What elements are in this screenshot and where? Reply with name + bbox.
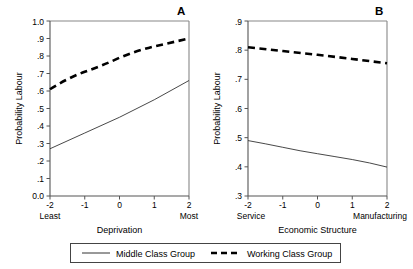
panel-a-series-middle-class (50, 81, 189, 149)
panel-a-xtick-3: 1 (152, 200, 157, 210)
panel-a-xend-left: Least (40, 211, 61, 221)
panel-b-series-middle-class (248, 141, 387, 168)
panel-b-xtick-0: -2 (244, 200, 252, 210)
legend-label-working-class: Working Class Group (247, 249, 332, 259)
panel-b-ytick-0: .3 (235, 191, 242, 201)
panel-b-xticklabels: -2 -1 0 1 2 (244, 200, 389, 210)
panel-a-xtick-4: 2 (187, 200, 192, 210)
panel-b-xtick-1: -1 (279, 200, 287, 210)
panel-b-series-working-class (248, 47, 387, 63)
panel-a: A 0.0 .1 .2 (14, 5, 199, 235)
panel-b-xtick-4: 2 (385, 200, 390, 210)
panel-a-ytick-8: .8 (37, 51, 44, 61)
panel-b-letter: B (375, 5, 383, 17)
panel-a-ytick-5: .5 (37, 104, 44, 114)
panel-a-yticklabels: 0.0 .1 .2 .3 .4 .5 .6 .7 .8 .9 1.0 (32, 17, 44, 202)
panel-b-ytick-3: .6 (235, 104, 242, 114)
legend: Middle Class Group Working Class Group (71, 244, 341, 263)
panel-a-ytick-10: 1.0 (32, 17, 44, 27)
panel-b-xend-left: Service (237, 211, 266, 221)
panel-a-letter: A (177, 5, 185, 17)
panel-a-ytick-7: .7 (37, 69, 44, 79)
panel-b-ytick-1: .4 (235, 162, 242, 172)
panel-a-ytick-3: .3 (37, 139, 44, 149)
panel-a-ytick-9: .9 (37, 34, 44, 44)
panel-b-yticklabels: .3 .4 .5 .6 .7 .8 .9 (235, 17, 242, 202)
panel-b-xlabel: Economic Structure (278, 225, 357, 235)
panel-a-ytick-1: .1 (37, 174, 44, 184)
panel-a-ytick-6: .6 (37, 86, 44, 96)
panel-a-ytick-2: .2 (37, 156, 44, 166)
panel-a-ytick-0: 0.0 (32, 191, 44, 201)
panel-b-xtick-2: 0 (315, 200, 320, 210)
panel-a-ytick-4: .4 (37, 121, 44, 131)
panel-b-xend-right: Manufacturing (353, 211, 407, 221)
panel-a-ylabel: Probability Labour (14, 72, 24, 145)
panel-b-ylabel: Probability Labour (212, 72, 222, 145)
panel-b-ytick-2: .5 (235, 133, 242, 143)
panel-b-ytick-4: .7 (235, 74, 242, 84)
panel-a-xend-right: Most (180, 211, 199, 221)
legend-label-middle-class: Middle Class Group (116, 249, 195, 259)
panel-b-xtick-3: 1 (350, 200, 355, 210)
panel-a-xtick-0: -2 (46, 200, 54, 210)
figure-container: A 0.0 .1 .2 (0, 0, 413, 269)
panel-a-xtick-1: -1 (81, 200, 89, 210)
panel-a-series-working-class (50, 39, 189, 90)
chart-svg: A 0.0 .1 .2 (0, 0, 413, 269)
panel-b-ytick-6: .9 (235, 17, 242, 27)
panel-b: B .3 .4 .5 .6 .7 .8 (212, 5, 407, 235)
panel-a-xlabel: Deprivation (97, 225, 143, 235)
panel-a-xtick-2: 0 (117, 200, 122, 210)
panel-b-ytick-5: .8 (235, 45, 242, 55)
panel-a-xticklabels: -2 -1 0 1 2 (46, 200, 191, 210)
